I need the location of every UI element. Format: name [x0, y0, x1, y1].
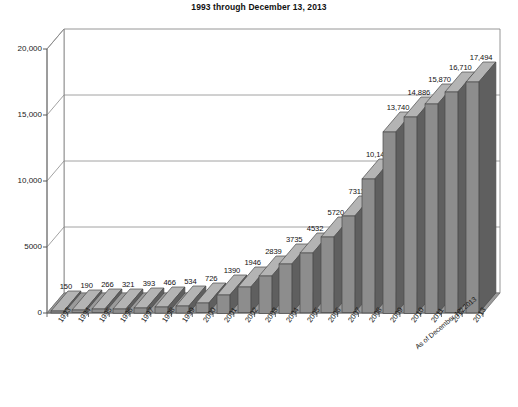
- cut-off-caption: [120, 399, 470, 407]
- bar-2013: [466, 62, 496, 313]
- y-tick-label: 15,000: [0, 110, 42, 119]
- bar-chart: 1993 through December 13, 2013: [0, 0, 518, 407]
- plot-area: 20,000 15,000 10,000 5000 0 150190266321…: [0, 0, 518, 407]
- bar-value-label: 17,494: [463, 53, 499, 62]
- y-tick-label: 20,000: [0, 44, 42, 53]
- y-tick-label: 10,000: [0, 176, 42, 185]
- y-tick-label: 0: [0, 308, 42, 317]
- y-tick-label: 5000: [0, 242, 42, 251]
